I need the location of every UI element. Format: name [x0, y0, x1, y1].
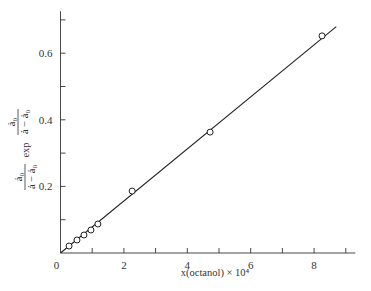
y-tick-label: 0.4 — [39, 114, 53, 126]
y-label-exp: exp — [20, 142, 31, 157]
y-tick-label: 0.6 — [39, 47, 53, 59]
fit-line — [61, 27, 337, 253]
y-label-right-den: ȧ − ȧ₀ — [19, 110, 30, 134]
data-point-marker — [319, 33, 325, 39]
data-point-marker — [95, 221, 101, 227]
y-label-left-den: ȧ − ȧ₀ — [26, 165, 37, 189]
data-point-marker — [74, 237, 80, 243]
data-point-marker — [88, 227, 94, 233]
y-tick-label: 0.2 — [39, 180, 53, 192]
data-point-marker — [207, 129, 213, 135]
x-tick-label: 8 — [311, 259, 317, 271]
chart: 0.20.40.6 02468 x(octanol) × 10⁴ ȧ₀ ȧ − … — [0, 0, 371, 291]
fit-line-segment — [61, 27, 337, 253]
data-point-marker — [129, 188, 135, 194]
y-label-right-num: ȧ₀ — [6, 118, 17, 127]
y-axis-label: ȧ₀ ȧ − ȧ₀ exp ȧ₀ ȧ − ȧ₀ — [6, 109, 37, 190]
data-point-marker — [66, 243, 72, 249]
x-axis-label: x(octanol) × 10⁴ — [181, 267, 250, 279]
x-tick-label: 0 — [54, 259, 60, 271]
y-axis: 0.20.40.6 — [39, 11, 66, 253]
y-label-left-num: ȧ₀ — [13, 173, 24, 182]
data-point-marker — [81, 232, 87, 238]
x-tick-label: 2 — [121, 259, 127, 271]
